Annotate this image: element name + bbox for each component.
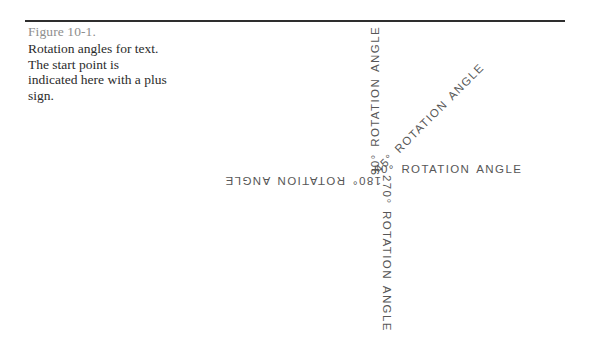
figure-page: Figure 10-1. Rotation angles for text. T… — [0, 0, 590, 349]
rotation-angle-diagram: + 0° ROTATION ANGLE 45° ROTATION ANGLE 9… — [0, 0, 590, 349]
rotation-label-270-degrees: 270° ROTATION ANGLE — [381, 175, 393, 332]
rotation-label-180-degrees: 180° ROTATION ANGLE — [224, 175, 381, 187]
rotation-label-45-degrees: 45° ROTATION ANGLE — [373, 61, 487, 175]
rotation-label-90-degrees: 90° ROTATION ANGLE — [369, 26, 381, 175]
rotation-label-0-degrees: 0° ROTATION ANGLE — [381, 163, 522, 175]
